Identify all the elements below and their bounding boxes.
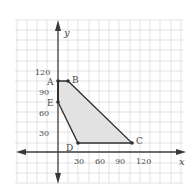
vertex-a <box>56 79 60 83</box>
vertex-e <box>56 100 60 104</box>
x-tick-120: 120 <box>136 157 151 166</box>
coordinate-plane: y x 120 90 60 30 30 60 90 120 A B C D E <box>0 0 195 196</box>
y-tick-30: 30 <box>39 129 49 138</box>
y-axis-arrow-down-icon <box>55 173 61 184</box>
y-axis-arrow-up-icon <box>55 20 61 31</box>
point-label-c: C <box>136 136 143 146</box>
point-label-e: E <box>47 98 54 108</box>
y-axis-label: y <box>63 27 70 38</box>
y-tick-60: 60 <box>39 109 49 118</box>
x-tick-60: 60 <box>95 157 105 166</box>
x-axis-arrow-left-icon <box>16 149 26 155</box>
x-tick-90: 90 <box>115 157 125 166</box>
vertex-d <box>76 141 80 145</box>
point-label-d: D <box>66 143 73 153</box>
vertex-b <box>66 79 70 83</box>
point-label-b: B <box>72 75 79 85</box>
y-tick-90: 90 <box>39 88 49 97</box>
y-tick-120: 120 <box>35 68 50 77</box>
point-label-a: A <box>46 77 54 87</box>
x-axis-label: x <box>179 156 185 167</box>
vertex-c <box>130 141 134 145</box>
x-tick-30: 30 <box>74 157 84 166</box>
